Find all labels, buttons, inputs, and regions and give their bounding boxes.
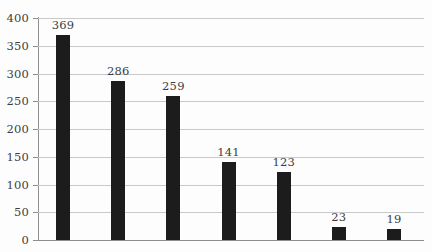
y-axis-tick: [33, 129, 38, 130]
y-axis-label: 0: [21, 233, 29, 247]
y-axis-label: 300: [6, 67, 29, 81]
bar-value-label: 23: [331, 210, 346, 224]
y-axis-tick: [33, 74, 38, 75]
bar-value-label: 286: [107, 64, 130, 78]
y-axis-label: 200: [6, 122, 29, 136]
bar: [332, 227, 346, 240]
y-axis-tick: [33, 18, 38, 19]
gridline: [38, 46, 424, 47]
gridline: [38, 129, 424, 130]
bar-value-label: 141: [217, 145, 240, 159]
y-axis-label: 400: [6, 11, 29, 25]
y-axis-tick: [33, 185, 38, 186]
bar: [56, 35, 70, 240]
y-axis-label: 150: [6, 150, 29, 164]
bar: [111, 81, 125, 240]
bar: [166, 96, 180, 240]
y-axis-label: 100: [6, 178, 29, 192]
axis-baseline: [33, 240, 424, 241]
bar-chart: 400350300250200150100500 369286259141123…: [0, 0, 432, 252]
y-axis-tick: [33, 212, 38, 213]
bar: [222, 162, 236, 240]
bar-value-label: 369: [52, 18, 75, 32]
y-axis-label: 350: [6, 39, 29, 53]
bar-value-label: 19: [386, 212, 401, 226]
y-axis-tick: [33, 157, 38, 158]
bar-value-label: 259: [162, 79, 185, 93]
y-axis-tick: [33, 101, 38, 102]
bar: [387, 229, 401, 240]
gridline: [38, 74, 424, 75]
gridline: [38, 18, 424, 19]
bar: [277, 172, 291, 240]
y-axis-tick: [33, 240, 38, 241]
gridline: [38, 101, 424, 102]
y-axis-label: 250: [6, 94, 29, 108]
y-axis-label: 50: [14, 205, 29, 219]
y-axis-tick: [33, 46, 38, 47]
plot-area: 400350300250200150100500 369286259141123…: [38, 18, 424, 240]
bar-value-label: 123: [272, 155, 295, 169]
